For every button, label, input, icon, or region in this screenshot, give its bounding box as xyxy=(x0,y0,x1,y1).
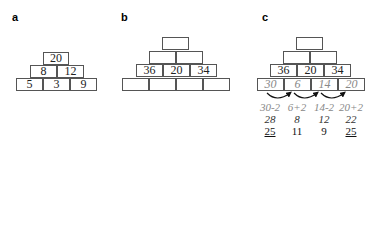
expression: 20+2 xyxy=(337,101,365,113)
final-value: 11 xyxy=(283,125,311,137)
final-value: 9 xyxy=(310,125,338,137)
final-value: 25 xyxy=(256,125,284,137)
final-value: 25 xyxy=(337,125,365,137)
intermediate-value: 8 xyxy=(283,113,311,125)
expression: 14-2 xyxy=(310,101,338,113)
intermediate-value: 22 xyxy=(337,113,365,125)
intermediate-value: 28 xyxy=(256,113,284,125)
intermediate-value: 12 xyxy=(310,113,338,125)
expression: 6+2 xyxy=(283,101,311,113)
expression: 30-2 xyxy=(256,101,284,113)
